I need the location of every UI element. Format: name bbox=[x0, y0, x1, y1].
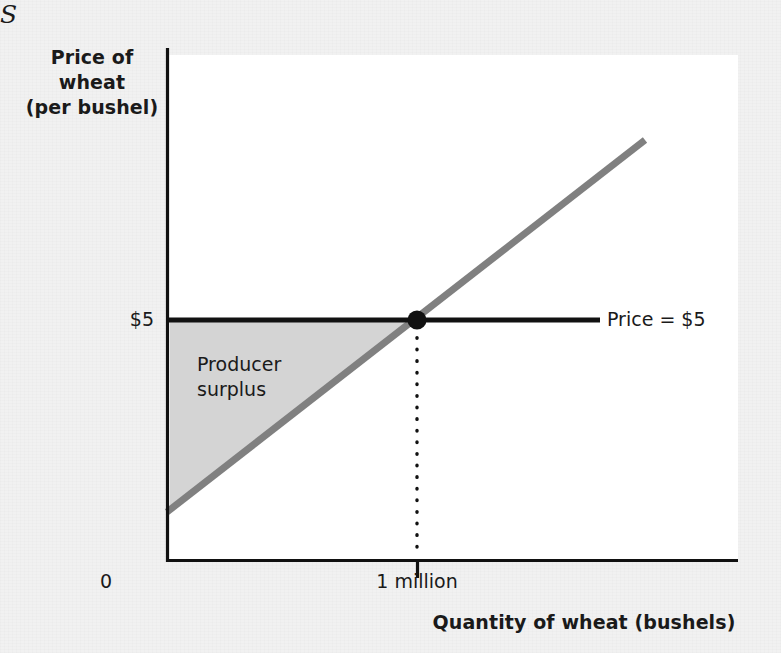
x-axis-title: Quantity of wheat (bushels) bbox=[398, 610, 770, 635]
producer-surplus-label-line-2: surplus bbox=[197, 377, 327, 402]
y-axis-title-line-1: Price of bbox=[18, 45, 166, 70]
equilibrium-point-marker bbox=[408, 311, 427, 330]
y-axis-title-line-2: wheat bbox=[18, 70, 166, 95]
y-axis-title: Price of wheat (per bushel) bbox=[18, 45, 166, 120]
producer-surplus-label: Producer surplus bbox=[197, 352, 327, 402]
producer-surplus-figure: Price of wheat (per bushel) Quantity of … bbox=[0, 0, 781, 653]
x-axis-tick-label-1-million: 1 million bbox=[343, 570, 491, 592]
y-axis-tick-label-5: $5 bbox=[96, 308, 154, 330]
price-line-label: Price = $5 bbox=[607, 308, 706, 330]
x-axis-tick-label-0: 0 bbox=[92, 570, 120, 592]
producer-surplus-label-line-1: Producer bbox=[197, 352, 327, 377]
y-axis-title-line-3: (per bushel) bbox=[18, 95, 166, 120]
